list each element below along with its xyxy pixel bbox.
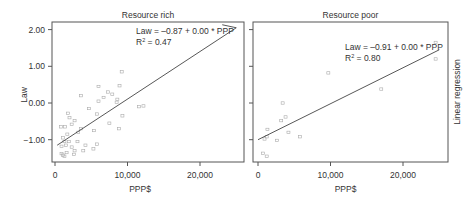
panel-title: Resource poor bbox=[323, 10, 379, 20]
data-point bbox=[275, 139, 278, 141]
data-point bbox=[287, 131, 290, 133]
regression-equation: Law = –0.87 + 0.00 * PPP bbox=[136, 26, 234, 36]
data-point bbox=[266, 128, 269, 130]
side-label: Linear regression bbox=[452, 59, 462, 125]
data-point bbox=[59, 126, 62, 128]
x-axis-label: PPP$ bbox=[129, 184, 151, 194]
data-point bbox=[115, 101, 118, 103]
data-point bbox=[96, 113, 99, 115]
data-point bbox=[97, 100, 100, 102]
x-tick-label: 10,000 bbox=[115, 170, 141, 180]
regression-line bbox=[258, 50, 439, 140]
r-squared: R2 = 0.80 bbox=[345, 53, 381, 63]
data-point bbox=[117, 127, 120, 129]
data-point bbox=[280, 119, 283, 121]
data-point bbox=[88, 107, 91, 109]
chart-canvas: Resource rich2.001.000.00−1.00010,00020,… bbox=[0, 0, 475, 203]
data-point bbox=[70, 146, 73, 148]
data-point bbox=[118, 85, 121, 87]
data-point bbox=[121, 115, 124, 117]
data-point bbox=[67, 140, 70, 142]
y-tick-label: 1.00 bbox=[28, 61, 45, 71]
y-axis-label: Law bbox=[19, 86, 29, 102]
data-point bbox=[281, 102, 284, 104]
data-point bbox=[120, 71, 123, 73]
data-point bbox=[116, 98, 119, 100]
data-point bbox=[434, 58, 437, 60]
data-point bbox=[108, 122, 111, 124]
data-point bbox=[82, 150, 85, 152]
data-point bbox=[92, 148, 95, 150]
data-point bbox=[262, 152, 265, 154]
data-point bbox=[138, 105, 141, 107]
data-point bbox=[97, 85, 100, 87]
data-point bbox=[76, 140, 79, 142]
data-point bbox=[265, 155, 268, 157]
data-point bbox=[64, 126, 67, 128]
data-point bbox=[68, 116, 71, 118]
x-tick-label: 20,000 bbox=[390, 170, 416, 180]
data-point bbox=[65, 151, 68, 153]
data-point bbox=[327, 72, 330, 74]
x-axis-label: PPP$ bbox=[335, 184, 357, 194]
data-point bbox=[66, 133, 69, 135]
data-point bbox=[80, 94, 83, 96]
data-point bbox=[64, 144, 67, 146]
data-point bbox=[380, 88, 383, 90]
x-tick-label: 10,000 bbox=[318, 170, 344, 180]
data-point bbox=[70, 123, 73, 125]
data-point bbox=[142, 105, 145, 107]
r-squared: R2 = 0.47 bbox=[136, 37, 172, 47]
panel-resource-poor: Resource poor010,00020,000PPP$Law = –0.9… bbox=[249, 10, 448, 194]
data-point bbox=[67, 112, 70, 114]
y-tick-label: 2.00 bbox=[28, 25, 45, 35]
data-point bbox=[73, 119, 76, 121]
data-point bbox=[93, 129, 96, 131]
data-point bbox=[96, 143, 99, 145]
regression-equation: Law = –0.91 + 0.00 * PPP bbox=[345, 42, 443, 52]
panel-title: Resource rich bbox=[122, 10, 175, 20]
data-point bbox=[73, 150, 76, 152]
data-point bbox=[111, 93, 114, 95]
panel-resource-rich: Resource rich2.001.000.00−1.00010,00020,… bbox=[19, 10, 244, 194]
y-tick-label: −1.00 bbox=[23, 135, 45, 145]
data-point bbox=[60, 145, 63, 147]
data-point bbox=[284, 116, 287, 118]
data-point bbox=[61, 137, 64, 139]
data-point bbox=[299, 136, 302, 138]
data-point bbox=[72, 153, 75, 155]
data-point bbox=[84, 144, 87, 146]
x-tick-label: 20,000 bbox=[187, 170, 213, 180]
x-tick-label: 0 bbox=[256, 170, 261, 180]
x-tick-label: 0 bbox=[53, 170, 58, 180]
data-point bbox=[102, 96, 105, 98]
y-tick-label: 0.00 bbox=[28, 98, 45, 108]
data-point bbox=[106, 91, 109, 93]
